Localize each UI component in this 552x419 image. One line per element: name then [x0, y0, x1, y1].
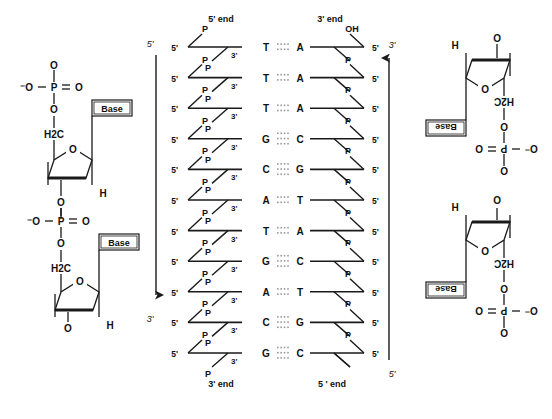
hydrogen-bond-dot — [284, 288, 286, 290]
hydrogen-bond-dot — [280, 196, 282, 198]
right-diagonal-up — [350, 340, 364, 353]
left-strand-5prime-label: 5' — [171, 318, 178, 328]
hydrogen-bond-dot — [287, 196, 289, 198]
hydrogen-bond-dot — [284, 255, 286, 257]
base-right: C — [296, 134, 303, 145]
hydrogen-bond-dot — [277, 143, 279, 145]
left-direction-arrow: 5' 3' — [147, 39, 156, 324]
base-label-upper: Base — [101, 104, 123, 114]
hydrogen-bond-dot — [280, 110, 282, 112]
hydrogen-bond-dot — [284, 321, 286, 323]
left-strand-5prime-label: 5' — [171, 257, 178, 267]
left-strand-3prime-label: 3' — [231, 235, 237, 244]
hydrogen-bond-dot — [287, 321, 289, 323]
base-right: A — [296, 226, 303, 237]
atom-o-right: O — [75, 82, 83, 93]
hydrogen-bond-dot — [277, 255, 279, 257]
hydrogen-bond-dot — [287, 232, 289, 234]
hydrogen-bond-dot — [280, 168, 282, 170]
r2-base-label: Base — [435, 284, 457, 294]
left-phosphate-top-label: P — [202, 208, 208, 218]
base-left: C — [262, 164, 269, 175]
base-left: A — [262, 287, 269, 298]
left-phosphate-top-label: P — [202, 85, 208, 95]
hydrogen-bond-dot — [277, 43, 279, 45]
right-structure-labels-upper: O O⁻ P O O H2C O H O — [451, 32, 537, 176]
hydrogen-bond-dot — [280, 74, 282, 76]
left-strand-5prime-label: 5' — [171, 349, 178, 359]
left-strand-3prime-label: 3' — [231, 112, 237, 121]
r-base-label: Base — [435, 122, 457, 132]
hydrogen-bond-dot — [277, 327, 279, 329]
hydrogen-bond-dot — [277, 352, 279, 354]
hydrogen-bond-dot — [287, 255, 289, 257]
ladder-row: 5'3'PTA5'PP — [171, 85, 379, 134]
left-diagonal-down — [212, 322, 228, 336]
right-hydroxyl-label: OH — [345, 24, 359, 34]
hydrogen-bond-dot — [287, 316, 289, 318]
r2-atom-h2c: H2C — [494, 258, 514, 269]
hydrogen-bond-dot — [277, 265, 279, 267]
atom-h2c-lower: H2C — [51, 263, 71, 274]
left-diagonal-up — [188, 218, 202, 231]
right-diagonal-up — [350, 309, 364, 322]
right-direction-arrow: 3' 5' — [389, 40, 396, 379]
hydrogen-bond-dot — [287, 79, 289, 81]
left-strand-5prime-label: 5' — [171, 227, 178, 237]
hydrogen-bond-dot — [277, 293, 279, 295]
hydrogen-bond-dot — [284, 43, 286, 45]
right-phosphate-label: P — [345, 116, 351, 126]
hydrogen-bond-dot — [287, 168, 289, 170]
atom-p-mid: P — [58, 216, 65, 227]
left-diagonal-down — [212, 47, 228, 61]
r-atom-o-bottom: O — [500, 121, 508, 132]
atom-h-lower: H — [106, 320, 113, 331]
atom-h2c-upper: H2C — [44, 129, 64, 140]
hydrogen-bond-dot — [287, 202, 289, 204]
hydrogen-bond-dot — [287, 143, 289, 145]
hydrogen-bond-dot — [284, 316, 286, 318]
hydrogen-bond-dot — [280, 260, 282, 262]
hydrogen-bond-dot — [284, 265, 286, 267]
left-phosphate-top-label: P — [202, 55, 208, 65]
right-phosphate-label: P — [345, 299, 351, 309]
ladder-tail — [334, 353, 350, 367]
left-nucleotide-structure — [38, 70, 99, 322]
hydrogen-bond-dot — [284, 202, 286, 204]
dna-structure-figure: Base Base O ⁻O P O O H2C O H O ⁻O P O O … — [0, 0, 552, 419]
left-diagonal-down — [212, 139, 228, 153]
right-strand-5prime-label: 5' — [372, 257, 379, 267]
ladder-row: 5'3'PGC5'PP — [171, 238, 379, 287]
hydrogen-bond-dot — [277, 357, 279, 359]
hydrogen-bond-dot — [277, 202, 279, 204]
right-base-box-upper: Base — [426, 120, 466, 136]
left-strand-3prime-label: 3' — [231, 82, 237, 91]
left-diagonal-up — [188, 309, 202, 322]
atom-ring-o-upper: O — [69, 144, 77, 155]
hydrogen-bond-dot — [277, 196, 279, 198]
r2-atom-h: H — [451, 201, 458, 212]
base-left: T — [263, 73, 269, 84]
hydrogen-bond-dot — [280, 288, 282, 290]
r-atom-h: H — [451, 39, 458, 50]
hydrogen-bond-dot — [277, 133, 279, 135]
hydrogen-bond-dot — [287, 357, 289, 359]
right-diagonal-up — [350, 65, 364, 78]
hydrogen-bond-dot — [284, 357, 286, 359]
ladder-row: 5'3'PTA5'OHP — [171, 24, 379, 73]
hydrogen-bond-dot — [280, 293, 282, 295]
left-phosphate-label: P — [205, 369, 211, 379]
left-strand-5prime-label: 5' — [171, 165, 178, 175]
atom-o-right-mid: O — [82, 216, 90, 227]
hydrogen-bond-dot — [280, 202, 282, 204]
left-diagonal-down — [212, 108, 228, 122]
hydrogen-bond-dot — [287, 163, 289, 165]
left-strand-5prime-label: 5' — [171, 135, 178, 145]
left-strand-5prime-label: 5' — [171, 104, 178, 114]
hydrogen-bond-dot — [287, 43, 289, 45]
right-strand-5prime-label: 5' — [372, 74, 379, 84]
label-bottom-right-end: 5 ' end — [318, 379, 346, 389]
hydrogen-bond-dot — [284, 49, 286, 51]
r2-atom-p: P — [500, 305, 507, 316]
hydrogen-bond-dot — [284, 327, 286, 329]
